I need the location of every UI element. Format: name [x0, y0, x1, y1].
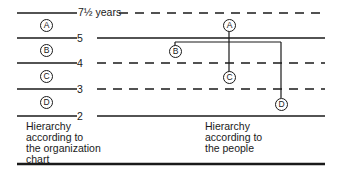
caption-people-line-3: the people	[205, 143, 262, 154]
level-label-4: 4	[77, 58, 83, 69]
people-node-b: B	[169, 45, 182, 58]
org-node-c: C	[40, 70, 53, 83]
people-node-c: C	[223, 71, 236, 84]
org-node-a: A	[40, 19, 53, 32]
caption-org-chart: Hierarchy according to the organization …	[26, 121, 101, 165]
level-label-3: 3	[77, 84, 83, 95]
caption-people: Hierarchy according to the people	[205, 121, 262, 154]
level-label-7-5-years: 7½ years	[78, 7, 121, 18]
caption-org-line-4: chart	[26, 154, 101, 165]
people-node-a: A	[223, 19, 236, 32]
people-node-d: D	[275, 98, 288, 111]
org-node-b: B	[40, 44, 53, 57]
level-label-5: 5	[77, 33, 83, 44]
org-node-d: D	[40, 96, 53, 109]
